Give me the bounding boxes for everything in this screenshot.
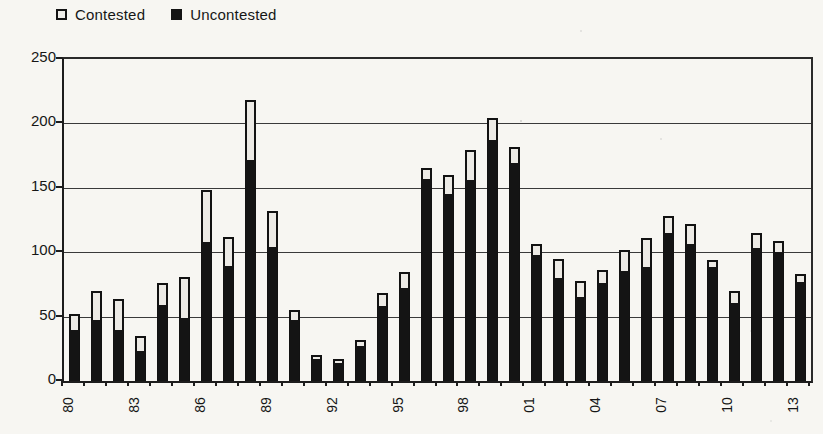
x-tick-mark-32: [764, 381, 766, 386]
bar-1986-uncontested: [202, 242, 211, 381]
x-tick-label-86: 86: [192, 397, 218, 413]
bar-1985-uncontested: [180, 318, 189, 381]
y-axis-labels: 050100150200250: [10, 0, 56, 434]
bar-1984: [157, 283, 168, 381]
bar-2003-uncontested: [576, 297, 585, 381]
bar-1991: [311, 355, 322, 381]
plot-area: [62, 57, 813, 383]
bar-1987-uncontested: [224, 266, 233, 381]
bar-1982: [113, 299, 124, 381]
bar-1983-uncontested: [136, 351, 145, 381]
bar-1999-uncontested: [488, 140, 497, 381]
x-tick-mark-30: [720, 381, 722, 386]
bar-2007: [663, 216, 674, 381]
gridline-150: [64, 188, 811, 189]
y-tick-mark-0: [56, 379, 62, 381]
x-tick-mark-21: [522, 381, 524, 386]
x-tick-mark-16: [413, 381, 415, 386]
x-tick-mark-17: [435, 381, 437, 386]
uncontested-swatch-icon: [171, 9, 182, 20]
x-tick-mark-19: [478, 381, 480, 386]
bar-1982-uncontested: [114, 330, 123, 381]
x-tick-mark-25: [610, 381, 612, 386]
x-tick-mark-1: [83, 381, 85, 386]
bar-1998-uncontested: [466, 180, 475, 381]
y-tick-label-0: 0: [10, 371, 56, 387]
bar-1984-uncontested: [158, 305, 167, 381]
bar-2000-uncontested: [510, 163, 519, 381]
x-tick-label-13: 13: [785, 397, 811, 413]
bar-1999: [487, 118, 498, 381]
x-tick-mark-0: [61, 381, 63, 386]
x-tick-mark-28: [676, 381, 678, 386]
x-tick-label-95: 95: [390, 397, 416, 413]
y-tick-label-50: 50: [10, 307, 56, 323]
x-tick-mark-34: [808, 381, 810, 386]
bar-1990-uncontested: [290, 320, 299, 381]
bar-2007-uncontested: [664, 233, 673, 381]
bar-1994: [377, 293, 388, 381]
x-tick-mark-29: [698, 381, 700, 386]
bar-1989: [267, 211, 278, 381]
bar-1991-uncontested: [312, 359, 321, 381]
bar-1992-uncontested: [334, 363, 343, 381]
bar-2013-uncontested: [796, 282, 805, 381]
bar-1980: [69, 314, 80, 381]
bar-1995-uncontested: [400, 288, 409, 381]
x-tick-mark-14: [369, 381, 371, 386]
x-tick-mark-6: [193, 381, 195, 386]
x-tick-label-89: 89: [258, 397, 284, 413]
bar-2010-uncontested: [730, 303, 739, 381]
bar-2011-uncontested: [752, 248, 761, 381]
x-tick-mark-27: [654, 381, 656, 386]
y-tick-label-100: 100: [10, 242, 56, 258]
y-tick-label-150: 150: [10, 178, 56, 194]
x-tick-mark-26: [632, 381, 634, 386]
y-tick-label-200: 200: [10, 113, 56, 129]
y-tick-mark-200: [56, 121, 62, 123]
bar-1996: [421, 168, 432, 381]
bar-1981: [91, 291, 102, 381]
x-tick-mark-8: [237, 381, 239, 386]
x-tick-mark-10: [281, 381, 283, 386]
scanned-chart-page: Contested Uncontested 050100150200250 80…: [0, 0, 823, 434]
legend-label-uncontested: Uncontested: [190, 6, 276, 23]
bar-2012-uncontested: [774, 252, 783, 381]
bar-1997-uncontested: [444, 194, 453, 381]
chart-legend: Contested Uncontested: [56, 6, 277, 23]
gridline-50: [64, 317, 811, 318]
x-tick-mark-22: [544, 381, 546, 386]
x-tick-mark-23: [566, 381, 568, 386]
x-tick-mark-24: [588, 381, 590, 386]
gridline-200: [64, 123, 811, 124]
legend-item-uncontested: Uncontested: [171, 6, 276, 23]
x-tick-mark-9: [259, 381, 261, 386]
bar-2012: [773, 241, 784, 381]
bar-1989-uncontested: [268, 247, 277, 381]
bar-1992: [333, 359, 344, 381]
bar-1981-uncontested: [92, 320, 101, 381]
x-tick-label-83: 83: [126, 397, 152, 413]
x-tick-mark-7: [215, 381, 217, 386]
x-tick-mark-13: [347, 381, 349, 386]
bar-1998: [465, 150, 476, 381]
x-tick-mark-31: [742, 381, 744, 386]
legend-label-contested: Contested: [75, 6, 145, 23]
x-tick-label-01: 01: [521, 397, 547, 413]
bar-2003: [575, 281, 586, 381]
bar-1996-uncontested: [422, 179, 431, 382]
x-tick-mark-18: [456, 381, 458, 386]
bar-1990: [289, 310, 300, 381]
bar-2004-uncontested: [598, 283, 607, 381]
contested-swatch-icon: [56, 9, 67, 20]
x-tick-label-98: 98: [455, 397, 481, 413]
bar-2008-uncontested: [686, 244, 695, 381]
y-tick-mark-150: [56, 186, 62, 188]
bar-1995: [399, 272, 410, 381]
x-tick-mark-2: [105, 381, 107, 386]
bar-2002: [553, 259, 564, 381]
gridline-100: [64, 252, 811, 253]
x-tick-label-80: 80: [60, 397, 86, 413]
x-tick-label-07: 07: [653, 397, 679, 413]
bar-1986: [201, 190, 212, 381]
